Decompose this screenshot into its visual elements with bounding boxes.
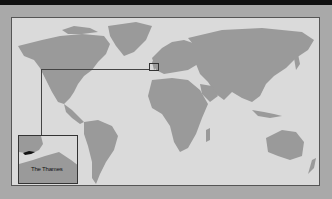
inset-land — [19, 136, 78, 184]
new-zealand — [308, 158, 316, 174]
central-america — [64, 104, 84, 124]
thames-locator-box — [149, 63, 159, 71]
inset-label: The Thames — [31, 166, 63, 172]
greenland — [108, 22, 152, 56]
africa — [148, 78, 208, 152]
south-america — [84, 120, 118, 184]
callout-line-vertical — [41, 69, 42, 135]
canada-islands — [62, 26, 98, 34]
thames-inset-map: The Thames — [18, 135, 78, 184]
australia — [266, 130, 304, 160]
indonesia — [252, 110, 282, 118]
callout-line-horizontal — [41, 69, 150, 70]
madagascar — [206, 128, 210, 142]
